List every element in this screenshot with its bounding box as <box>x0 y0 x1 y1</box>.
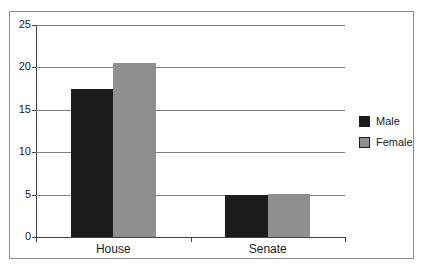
x-axis-category-label: Senate <box>228 242 308 256</box>
x-axis-tick <box>36 238 37 242</box>
legend-item-male: Male <box>359 115 413 128</box>
y-axis-tick-label: 20 <box>10 60 31 73</box>
y-axis-tick-label: 10 <box>10 145 31 158</box>
y-axis-tick <box>32 25 36 26</box>
bar-female-senate <box>268 194 311 237</box>
y-axis-tick <box>32 152 36 153</box>
y-gridline <box>36 67 345 68</box>
legend: MaleFemale <box>359 115 413 157</box>
chart-frame: MaleFemale 0510152025HouseSenate <box>9 11 414 259</box>
y-axis-tick <box>32 67 36 68</box>
y-axis-tick <box>32 195 36 196</box>
x-axis-tick <box>191 238 192 242</box>
y-axis-tick <box>32 110 36 111</box>
bar-male-senate <box>225 195 268 237</box>
y-axis-tick-label: 15 <box>10 103 31 116</box>
x-axis-category-label: House <box>73 242 153 256</box>
x-axis-tick <box>345 238 346 242</box>
y-axis-tick-label: 0 <box>10 230 31 243</box>
legend-label-female: Female <box>376 136 413 149</box>
y-axis-tick-label: 5 <box>10 188 31 201</box>
bar-male-house <box>71 89 114 237</box>
legend-swatch-male <box>359 116 370 127</box>
bar-female-house <box>113 63 156 237</box>
chart-canvas: MaleFemale 0510152025HouseSenate <box>0 0 425 272</box>
legend-swatch-female <box>359 137 370 148</box>
y-gridline <box>36 25 345 26</box>
y-axis-tick-label: 25 <box>10 18 31 31</box>
legend-item-female: Female <box>359 136 413 149</box>
legend-label-male: Male <box>376 115 400 128</box>
